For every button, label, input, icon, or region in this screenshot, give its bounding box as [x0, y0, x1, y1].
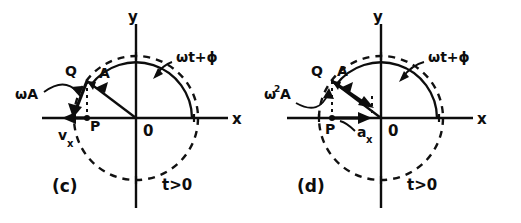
figure-svg: y x 0 Q P A ωA ωt+ϕ (c) t>0 v x — [0, 0, 521, 223]
omega2-a-leader-d — [296, 94, 328, 108]
radius-label-d: A — [337, 63, 348, 79]
x-axis-label-c: x — [232, 110, 242, 128]
point-q-label-d: Q — [311, 63, 323, 79]
radius-label-c: A — [99, 65, 110, 81]
origin-label-c: 0 — [143, 122, 153, 140]
point-p-label-c: P — [90, 118, 100, 134]
radius-vector-c — [87, 81, 136, 118]
point-p-label-d: P — [325, 121, 335, 137]
radius-arrowhead-c — [87, 81, 96, 90]
y-axis-label-c: y — [128, 8, 138, 26]
omega2-a-tail-d: A — [280, 86, 291, 102]
time-condition-d: t>0 — [407, 176, 437, 194]
panel-c: y x 0 Q P A ωA ωt+ϕ (c) t>0 v x — [15, 8, 242, 208]
point-q-label-c: Q — [65, 63, 77, 79]
origin-label-d: 0 — [388, 122, 398, 140]
panel-label-c: (c) — [52, 176, 78, 196]
velocity-component-subscript-c: x — [67, 138, 74, 149]
omega-a-label-c: ωA — [15, 86, 38, 102]
time-condition-c: t>0 — [162, 176, 192, 194]
velocity-component-label-c: v — [58, 127, 67, 143]
angle-arc-d — [336, 62, 437, 118]
acceleration-x-arrowhead-d — [358, 112, 372, 124]
angle-label-d: ωt+ϕ — [428, 49, 470, 65]
panel-d: y x 0 Q P A ω 2 A ωt+ϕ (d) t>0 a x — [264, 8, 487, 208]
panel-label-d: (d) — [297, 176, 325, 196]
y-axis-label-d: y — [373, 8, 383, 26]
acceleration-component-subscript-d: x — [366, 134, 373, 145]
phasor-figure: y x 0 Q P A ωA ωt+ϕ (c) t>0 v x — [0, 0, 521, 223]
velocity-x-arrowhead-c — [62, 112, 76, 124]
ax-leader-d — [340, 121, 355, 131]
x-axis-label-d: x — [477, 110, 487, 128]
angle-label-c: ωt+ϕ — [176, 49, 218, 65]
